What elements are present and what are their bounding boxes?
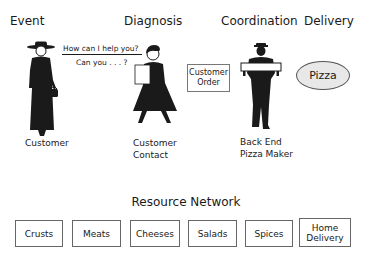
customer-order-line1: Customer [189,68,228,78]
role-customer: Customer [25,137,69,149]
resource-cheeses: Cheeses [130,220,180,247]
resource-crusts: Crusts [15,220,63,247]
resource-salads: Salads [188,220,237,247]
role-customer-contact: Customer Contact [133,137,177,161]
dialogue-divider [62,54,142,55]
role-customer-contact-line2: Contact [133,149,177,161]
pizza-carrier-icon [238,43,284,131]
resource-network-title: Resource Network [0,195,372,209]
customer-order-box: Customer Order [187,64,230,92]
resource-label-line1: Home [306,223,343,233]
woman-with-hat-icon [22,40,64,136]
dialogue-question: How can I help you? [63,44,139,53]
role-pizza-maker-line1: Back End [240,136,293,148]
stage-delivery: Delivery [304,14,354,28]
stage-diagnosis: Diagnosis [124,14,182,28]
resource-label: Cheeses [136,229,174,239]
role-pizza-maker: Back End Pizza Maker [240,136,293,160]
resource-label: Salads [198,229,228,239]
resource-label: Meats [83,229,110,239]
resource-label: Crusts [25,229,54,239]
dialogue-reply: Can you . . . ? [76,58,127,67]
stage-event: Event [10,14,44,28]
pizza-ellipse: Pizza [296,61,350,90]
resource-meats: Meats [72,220,121,247]
resource-spices: Spices [245,220,293,247]
resource-label: Spices [254,229,283,239]
customer-order-line2: Order [189,78,228,88]
role-pizza-maker-line2: Pizza Maker [240,148,293,160]
resource-label-line2: Delivery [306,233,343,243]
resource-home-delivery: Home Delivery [299,218,351,247]
stage-coordination: Coordination [221,14,298,28]
role-customer-contact-line1: Customer [133,137,177,149]
server-with-menu-icon [133,43,179,125]
